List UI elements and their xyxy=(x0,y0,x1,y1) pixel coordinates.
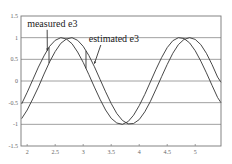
x-tick-label: 4 xyxy=(138,149,141,155)
y-tick-label: -0.5 xyxy=(9,100,19,106)
y-tick-label: -1 xyxy=(13,121,18,127)
x-tick-label: 5 xyxy=(194,149,197,155)
annotation-label: estimated e3 xyxy=(89,33,139,44)
line-chart: 1.510.50-0.5-1-1.5 22.533.544.55 measure… xyxy=(0,0,232,164)
x-tick-label: 3 xyxy=(82,149,85,155)
x-tick-label: 4.5 xyxy=(163,149,171,155)
y-axis-ticks: 1.510.50-0.5-1-1.5 xyxy=(9,13,19,149)
x-tick-label: 2 xyxy=(26,149,29,155)
annotation-arrow xyxy=(94,45,100,64)
annotations: measured e3estimated e3 xyxy=(27,18,139,69)
y-tick-label: 1 xyxy=(15,35,18,41)
x-tick-label: 2.5 xyxy=(51,149,59,155)
y-tick-label: 0.5 xyxy=(11,56,19,62)
y-tick-label: 1.5 xyxy=(11,13,19,19)
gridlines xyxy=(21,38,221,125)
y-tick-label: 0 xyxy=(15,78,18,84)
x-tick-label: 3.5 xyxy=(107,149,115,155)
annotation-label: measured e3 xyxy=(27,18,77,29)
y-tick-label: -1.5 xyxy=(9,143,19,149)
